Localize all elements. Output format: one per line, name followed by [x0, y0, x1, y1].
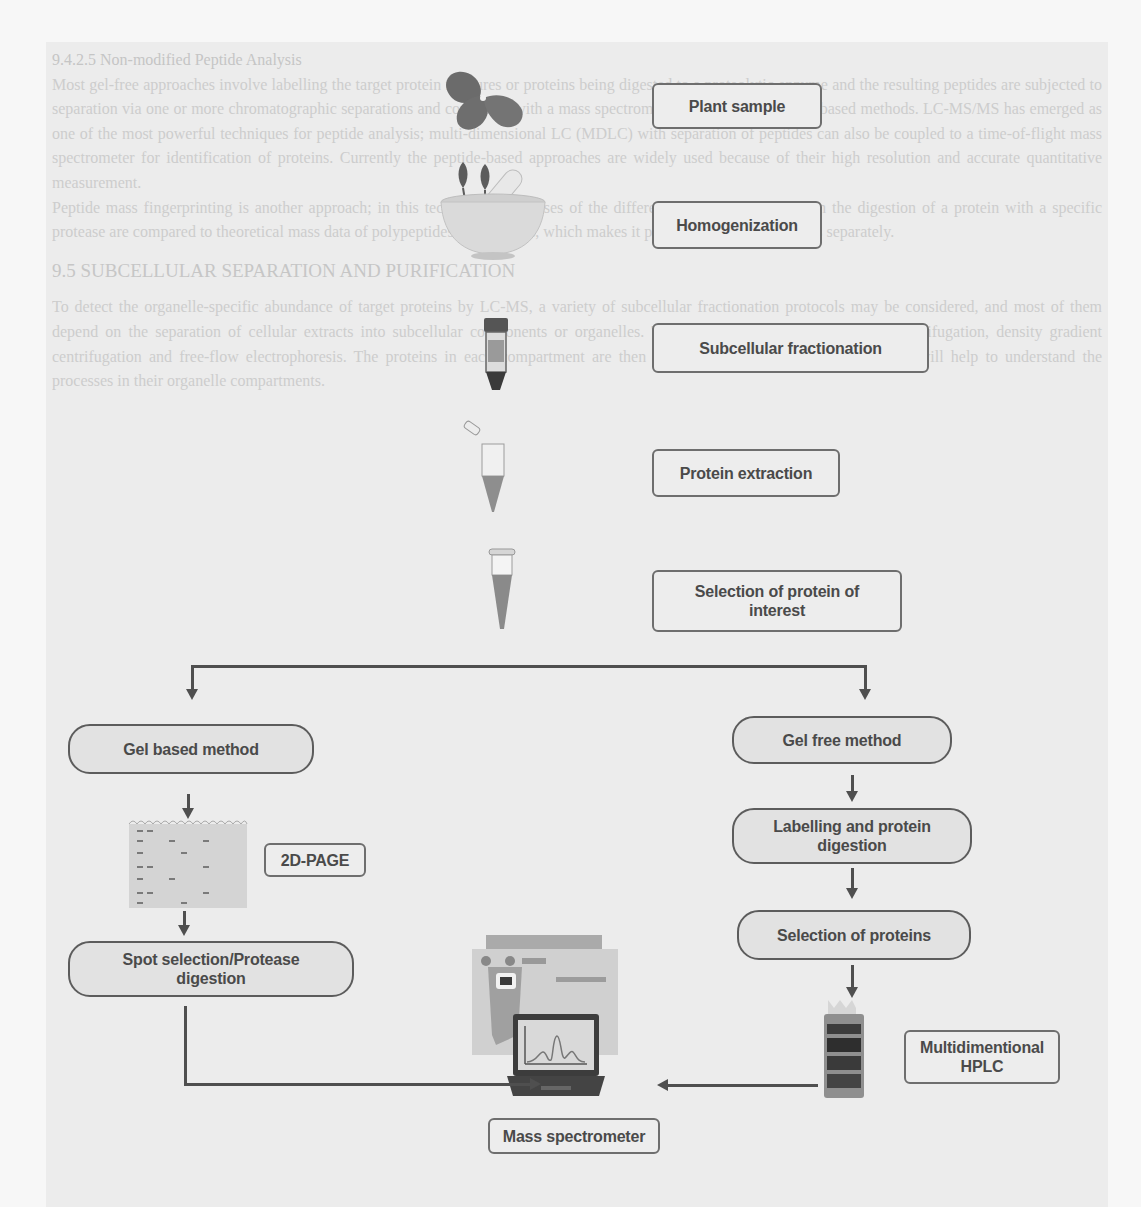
protein-extraction-box: Protein extraction	[652, 449, 840, 497]
selection-proteins-box: Selection of proteins	[737, 910, 971, 960]
gel-free-method-label: Gel free method	[783, 731, 902, 750]
connector	[668, 1084, 818, 1087]
connector	[851, 965, 854, 989]
gel-electrophoresis-icon	[129, 820, 247, 908]
hplc-instrument-icon	[820, 1000, 870, 1098]
laptop-spectrum-icon	[507, 1014, 605, 1104]
arrow-down-icon	[182, 808, 194, 819]
plant-sample-label: Plant sample	[689, 97, 785, 116]
closed-microtube-icon	[487, 549, 517, 635]
mass-spectrometer-box: Mass spectrometer	[488, 1118, 660, 1154]
branch-left-drop	[191, 665, 194, 691]
arrow-down-icon	[846, 888, 858, 899]
spot-selection-box: Spot selection/Protease digestion	[68, 941, 354, 997]
gel-based-method-box: Gel based method	[68, 724, 314, 774]
2d-page-label: 2D-PAGE	[281, 851, 350, 870]
bleed-paragraph: To detect the organelle-specific abundan…	[52, 295, 1102, 393]
arrow-down-icon	[186, 689, 198, 700]
homogenization-label: Homogenization	[676, 216, 798, 235]
subcellular-fractionation-box: Subcellular fractionation	[652, 323, 929, 373]
arrow-left-icon	[657, 1079, 668, 1091]
branch-connector	[191, 665, 866, 668]
spot-selection-label: Spot selection/Protease digestion	[106, 950, 316, 988]
bleed-section-heading: 9.4.2.5 Non-modified Peptide Analysis	[52, 48, 1102, 73]
arrow-down-icon	[178, 925, 190, 936]
hplc-label: Multidimentional HPLC	[906, 1038, 1058, 1076]
mass-spectrometer-label: Mass spectrometer	[503, 1127, 645, 1146]
bleed-paragraph: Most gel-free approaches involve labelli…	[52, 73, 1102, 196]
selection-protein-interest-box: Selection of protein of interest	[652, 570, 902, 632]
branch-right-drop	[864, 665, 867, 691]
gel-free-method-box: Gel free method	[732, 716, 952, 764]
homogenization-box: Homogenization	[652, 201, 822, 249]
arrow-down-icon	[846, 791, 858, 802]
gel-based-method-label: Gel based method	[123, 740, 259, 759]
arrow-right-icon	[530, 1078, 541, 1090]
labelling-digestion-box: Labelling and protein digestion	[732, 808, 972, 864]
bleed-section-title: 9.5 SUBCELLULAR SEPARATION AND PURIFICAT…	[52, 259, 1102, 284]
hplc-box: Multidimentional HPLC	[904, 1030, 1060, 1084]
arrow-down-icon	[859, 689, 871, 700]
connector	[851, 868, 854, 890]
selection-proteins-label: Selection of proteins	[777, 926, 931, 945]
bleed-through-text: 9.4.2.5 Non-modified Peptide Analysis Mo…	[52, 48, 1102, 394]
connector	[184, 1006, 187, 1085]
subcellular-fractionation-label: Subcellular fractionation	[699, 339, 882, 358]
connector	[184, 1083, 532, 1086]
plant-sample-box: Plant sample	[652, 83, 822, 129]
selection-protein-interest-label: Selection of protein of interest	[674, 582, 880, 620]
mortar-pestle-icon	[435, 158, 555, 268]
arrow-down-icon	[846, 987, 858, 998]
labelling-digestion-label: Labelling and protein digestion	[752, 817, 952, 855]
strawberry-plant-icon	[440, 66, 550, 136]
centrifuge-tube-icon	[482, 318, 510, 398]
2d-page-box: 2D-PAGE	[264, 843, 366, 877]
open-microtube-icon	[460, 424, 510, 520]
protein-extraction-label: Protein extraction	[680, 464, 812, 483]
bleed-paragraph: Peptide mass fingerprinting is another a…	[52, 196, 1102, 245]
